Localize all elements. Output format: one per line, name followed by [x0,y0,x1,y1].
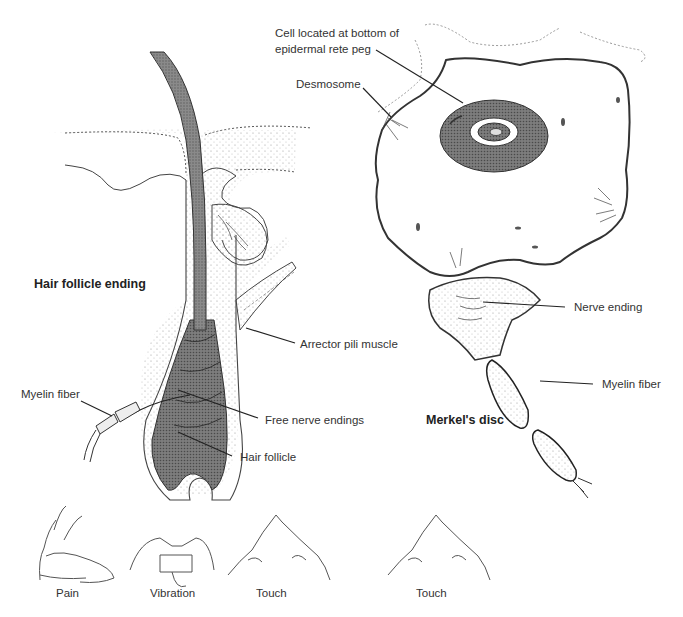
hand-sketches [40,506,491,587]
label-arrector-pili-muscle: Arrector pili muscle [300,337,398,351]
caption-vibration: Vibration [150,587,195,599]
figure-canvas: Hair follicle ending Merkel's disc Arrec… [0,0,683,617]
caption-touch-2: Touch [416,587,447,599]
caption-touch-1: Touch [256,587,287,599]
merkel-disc-drawing [376,24,645,498]
hair-follicle-title: Hair follicle ending [34,277,146,291]
label-cell-location-line1: Cell located at bottom of [275,26,399,40]
label-hair-follicle: Hair follicle [240,450,296,464]
merkel-disc-title: Merkel's disc [426,413,504,427]
label-free-nerve-endings: Free nerve endings [265,413,364,427]
label-myelin-fiber-left: Myelin fiber [21,387,80,401]
label-desmosome: Desmosome [296,77,361,91]
label-nerve-ending: Nerve ending [574,300,642,314]
label-cell-location-line2: epidermal rete peg [275,42,371,56]
label-myelin-fiber-right: Myelin fiber [602,377,661,391]
caption-pain: Pain [56,587,79,599]
